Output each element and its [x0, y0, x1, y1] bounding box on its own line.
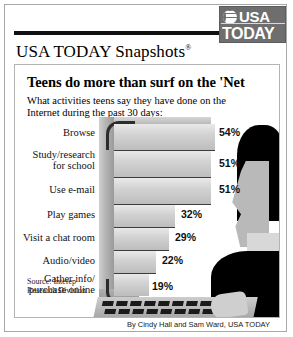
source-note: Source: Interep Research Division	[27, 277, 86, 296]
bar-value: 29%	[175, 232, 196, 243]
bar-email	[114, 178, 211, 204]
bar-label-line2: for school	[15, 160, 95, 171]
logo-top-row: USA	[223, 9, 270, 24]
snapshot-infographic: USA TODAY Snapshots® USA TODAY Teens do …	[0, 0, 293, 337]
masthead-title: USA TODAY Snapshots®	[16, 36, 191, 64]
globe-icon	[223, 10, 237, 24]
masthead-rule	[14, 31, 240, 35]
bar-label: Study/research	[15, 149, 95, 160]
bar-value: 22%	[162, 255, 183, 266]
keyboard-front-edge	[88, 317, 255, 318]
bar-label: Audio/video	[15, 255, 95, 266]
bar-value: 54%	[219, 127, 240, 138]
masthead-title-text: USA TODAY Snapshots	[16, 42, 185, 61]
bar-label: Browse	[15, 127, 95, 138]
bar-chat	[114, 228, 169, 250]
bar-gather-info	[114, 274, 149, 296]
bar-value: 51%	[219, 184, 240, 195]
logo-usa-text: USA	[239, 9, 270, 24]
bar-label: Play games	[15, 209, 95, 220]
logo-today-text: TODAY	[222, 25, 274, 42]
source-text: Source: Interep Research Division	[27, 277, 86, 295]
content-panel: Teens do more than surf on the 'Net What…	[14, 64, 280, 318]
registered-mark: ®	[185, 43, 191, 52]
logo-divider	[221, 23, 285, 24]
bar-audio-video	[114, 251, 156, 273]
bar-label: Use e-mail	[15, 184, 95, 195]
bar-games	[114, 205, 175, 227]
bar-label: Visit a chat room	[15, 232, 95, 243]
bar-study	[114, 151, 211, 177]
bar-browse	[114, 124, 215, 150]
bar-value: 32%	[181, 209, 202, 220]
usa-today-logo: USA TODAY	[219, 6, 286, 43]
byline: By Cindy Hall and Sam Ward, USA TODAY	[0, 320, 279, 329]
bar-value: 19%	[152, 281, 173, 292]
bar-value: 51%	[219, 158, 240, 169]
